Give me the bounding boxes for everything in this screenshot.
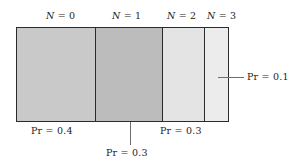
pr-label-n0: Pr = 0.4	[31, 126, 73, 136]
n-label-3: N = 3	[207, 11, 236, 21]
n-symbol: N	[46, 10, 55, 21]
pr-label-n1: Pr = 0.3	[106, 148, 148, 158]
pr-label-n2: Pr = 0.3	[160, 126, 202, 136]
n-symbol: N	[167, 10, 176, 21]
segment-n3	[204, 28, 228, 121]
probability-bar-figure: N = 0 N = 1 N = 2 N = 3 Pr = 0.4 Pr = 0.…	[0, 0, 298, 165]
n-label-1: N = 1	[112, 11, 141, 21]
n-value-2: = 2	[176, 10, 197, 21]
leader-line-n3	[218, 77, 244, 78]
segment-n0	[17, 28, 95, 121]
n-value-0: = 0	[55, 10, 76, 21]
n-label-2: N = 2	[167, 11, 196, 21]
segment-n1	[95, 28, 162, 121]
n-symbol: N	[112, 10, 121, 21]
pr-label-n3: Pr = 0.1	[247, 72, 289, 82]
n-label-0: N = 0	[46, 11, 75, 21]
segment-n2	[162, 28, 204, 121]
n-value-3: = 3	[216, 10, 237, 21]
leader-line-n1	[130, 122, 131, 145]
n-symbol: N	[207, 10, 216, 21]
n-value-1: = 1	[121, 10, 142, 21]
stacked-probability-bar	[16, 27, 229, 122]
